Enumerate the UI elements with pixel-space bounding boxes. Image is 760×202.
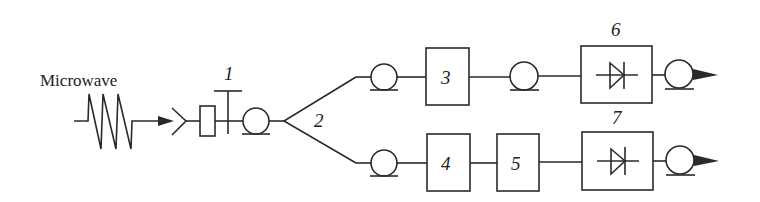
output-arrow-icon bbox=[693, 69, 718, 80]
component-label-1: 1 bbox=[224, 63, 234, 84]
component-label-5: 5 bbox=[511, 153, 521, 174]
cable-coil-icon bbox=[371, 64, 397, 90]
input-arrow-icon bbox=[158, 116, 174, 126]
microwave-label: Microwave bbox=[40, 71, 117, 90]
cable-coil-icon bbox=[666, 146, 694, 174]
component-label-4: 4 bbox=[441, 153, 451, 174]
microwave-block-diagram: Microwave 1 2 3 6 4 5 7 bbox=[0, 0, 760, 202]
cable-coil-icon bbox=[371, 150, 397, 176]
attenuator-block bbox=[200, 106, 215, 136]
cable-coil-icon bbox=[243, 108, 269, 134]
cable-coil-icon bbox=[665, 60, 693, 88]
output-arrow-icon bbox=[694, 155, 719, 166]
component-label-2: 2 bbox=[314, 110, 324, 131]
component-label-6: 6 bbox=[611, 19, 621, 40]
component-label-3: 3 bbox=[440, 67, 451, 88]
component-label-7: 7 bbox=[612, 107, 623, 128]
horn-icon bbox=[172, 108, 186, 135]
cable-coil-icon bbox=[510, 62, 538, 90]
microwave-zigzag-icon bbox=[74, 94, 158, 149]
